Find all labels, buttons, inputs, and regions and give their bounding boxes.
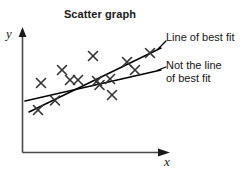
scatter-point xyxy=(108,91,117,100)
scatter-point xyxy=(74,76,83,85)
scatter-point xyxy=(89,52,98,61)
plot-canvas xyxy=(0,0,252,173)
scatter-graph-figure: Scatter graph y x Line of best fit Not t… xyxy=(0,0,252,173)
leader-line-best-fit xyxy=(158,41,166,49)
leader-line-not-best-fit xyxy=(158,67,166,70)
scatter-point xyxy=(58,66,67,75)
scatter-point xyxy=(37,79,46,88)
scatter-markers xyxy=(34,49,155,115)
scatter-point xyxy=(146,49,155,58)
x-axis xyxy=(23,148,171,156)
y-axis xyxy=(19,27,27,153)
scatter-point xyxy=(131,66,140,75)
scatter-point xyxy=(66,76,75,85)
